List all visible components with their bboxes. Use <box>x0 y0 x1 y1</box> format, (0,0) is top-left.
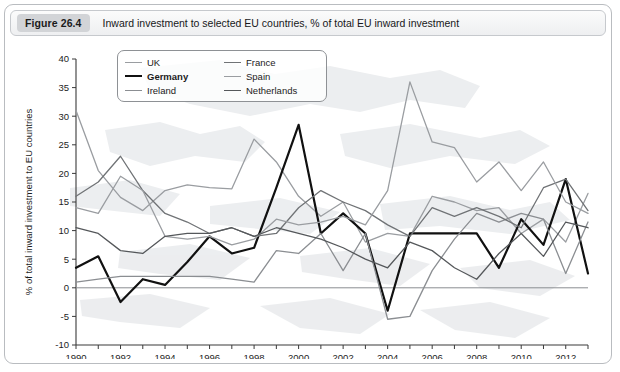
y-tick-label: 20 <box>58 168 69 179</box>
series-line-ireland <box>76 213 588 319</box>
y-tick-label: 15 <box>58 196 69 207</box>
legend-swatch-icon <box>125 90 142 91</box>
legend-swatch-icon <box>125 62 142 63</box>
legend-label: UK <box>147 57 160 68</box>
y-tick-label: 25 <box>58 139 69 150</box>
x-tick-label: 2002 <box>333 352 354 359</box>
legend-item-spain: Spain <box>224 69 321 83</box>
legend-label: Ireland <box>147 85 176 96</box>
x-tick-label: 2008 <box>466 352 487 359</box>
x-tick-label: 2004 <box>377 352 398 359</box>
legend-label: France <box>246 57 276 68</box>
y-tick-label: 0 <box>64 282 69 293</box>
y-tick-label: 35 <box>58 82 69 93</box>
x-tick-label: 2000 <box>288 352 309 359</box>
x-tick-label: 1992 <box>110 352 131 359</box>
figure-caption: Inward investment to selected EU countri… <box>103 17 460 29</box>
x-tick-label: 2006 <box>422 352 443 359</box>
legend-swatch-icon <box>224 90 241 91</box>
y-tick-label: 40 <box>58 53 69 64</box>
legend-item-uk: UK <box>125 55 222 69</box>
legend-label: Spain <box>246 71 270 82</box>
y-tick-label: 5 <box>64 254 69 265</box>
y-axis-title: % of total inward investment to EU count… <box>23 109 34 296</box>
series-line-netherlands <box>76 222 588 279</box>
x-tick-label: 1990 <box>65 352 86 359</box>
legend-item-netherlands: Netherlands <box>224 83 321 97</box>
figure-title-bar: Figure 26.4 Inward investment to selecte… <box>10 10 606 36</box>
x-tick-label: 1996 <box>199 352 220 359</box>
legend-label: Netherlands <box>246 85 297 96</box>
x-tick-label: 1994 <box>154 352 175 359</box>
figure-card: Figure 26.4 Inward investment to selecte… <box>4 4 612 364</box>
legend-item-ireland: Ireland <box>125 83 222 97</box>
y-tick-label: 10 <box>58 225 69 236</box>
y-tick-label: -10 <box>55 339 69 350</box>
legend-swatch-icon <box>224 62 241 63</box>
y-tick-label: 30 <box>58 111 69 122</box>
chart-plot-area: -10-505101520253035401990199219941996199… <box>10 38 606 359</box>
series-line-spain <box>76 82 588 245</box>
legend-swatch-icon <box>224 76 241 77</box>
figure-number-badge: Figure 26.4 <box>17 14 90 32</box>
legend-items: UKFranceGermanySpainIrelandNetherlands <box>118 51 326 101</box>
legend-swatch-icon <box>125 75 142 77</box>
y-tick-label: -5 <box>61 311 69 322</box>
x-tick-label: 2010 <box>511 352 532 359</box>
x-tick-label: 2012 <box>555 352 576 359</box>
legend-item-france: France <box>224 55 321 69</box>
chart-legend: UKFranceGermanySpainIrelandNetherlands <box>117 50 327 102</box>
legend-item-germany: Germany <box>125 69 222 83</box>
x-tick-label: 1998 <box>244 352 265 359</box>
legend-label: Germany <box>147 71 188 82</box>
